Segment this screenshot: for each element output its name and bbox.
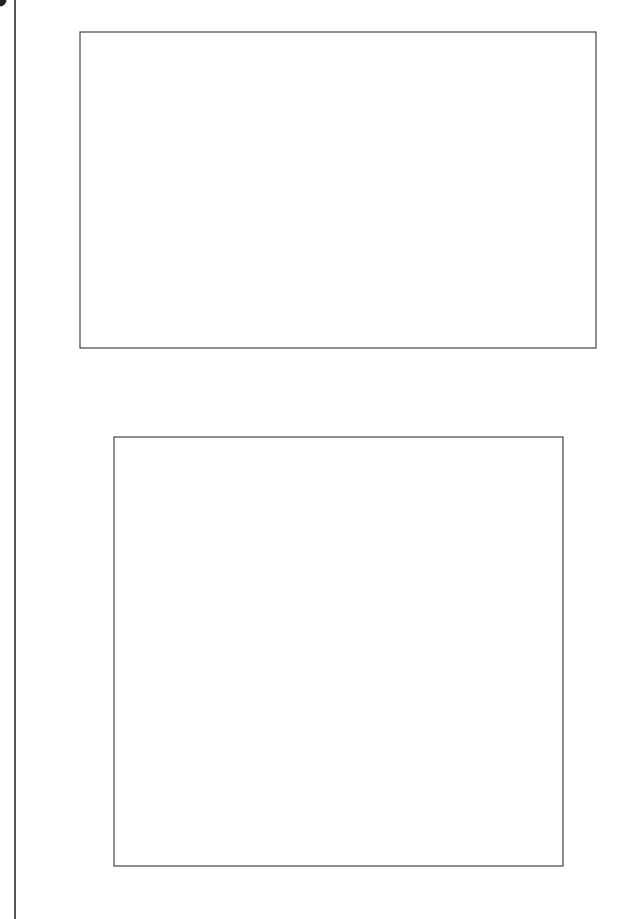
time-series-chart xyxy=(80,32,596,348)
figure xyxy=(0,0,626,919)
plot-frame xyxy=(80,32,596,348)
plot-frame xyxy=(114,437,563,866)
phase-portrait-chart xyxy=(0,0,563,866)
start-point-marker xyxy=(0,0,7,7)
